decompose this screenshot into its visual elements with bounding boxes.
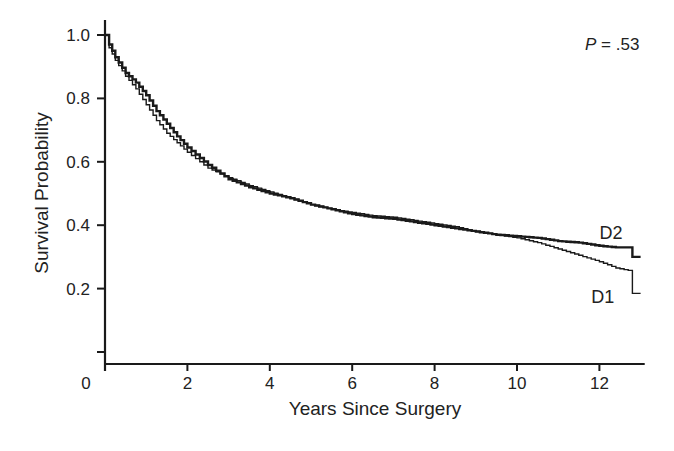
y-tick-label: 0.4 xyxy=(66,216,90,235)
y-tick-label: 0.8 xyxy=(66,89,90,108)
series-label-d1: D1 xyxy=(591,287,614,307)
y-axis-title: Survival Probability xyxy=(31,112,52,274)
p-value: = .53 xyxy=(596,35,639,54)
x-axis: 024681012 xyxy=(81,364,644,393)
survival-curve-d1 xyxy=(105,35,641,293)
series-label-d2: D2 xyxy=(599,223,622,243)
y-axis: 0.20.40.60.81.0 xyxy=(66,20,105,371)
y-tick-label: 0.6 xyxy=(66,153,90,172)
x-tick-label: 10 xyxy=(508,374,527,393)
y-tick-label: 1.0 xyxy=(66,26,90,45)
x-tick-label: 12 xyxy=(590,374,609,393)
x-tick-label: 0 xyxy=(81,374,90,393)
y-tick-label: 0.2 xyxy=(66,280,90,299)
x-tick-label: 2 xyxy=(183,374,192,393)
x-axis-title: Years Since Surgery xyxy=(289,398,462,419)
survival-curve-d2 xyxy=(105,35,641,257)
p-value-annotation: P = .53 xyxy=(585,35,639,54)
x-tick-label: 8 xyxy=(430,374,439,393)
survival-chart: D2D1 0.20.40.60.81.0 024681012 Survival … xyxy=(0,0,674,451)
x-tick-label: 4 xyxy=(265,374,274,393)
p-symbol: P xyxy=(585,35,597,54)
plot-area: D2D1 xyxy=(105,35,641,307)
x-tick-label: 6 xyxy=(347,374,356,393)
